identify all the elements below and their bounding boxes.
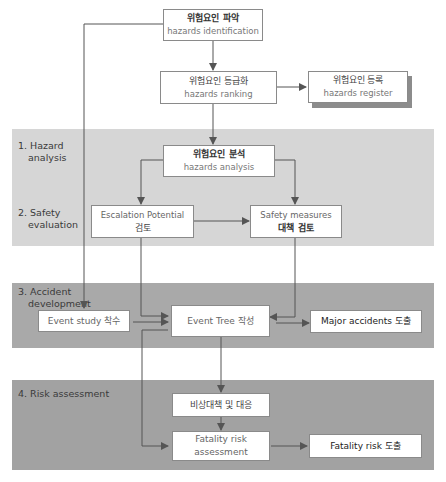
node-title: Major accidents 도출 [321,315,411,328]
node-title: Event study 착수 [48,315,120,328]
node-title-ko: 위험요인 등록 [333,74,384,87]
node-fatality-risk: Fatality risk 도출 [309,434,422,458]
node-event-tree: Event Tree 작성 [171,305,270,337]
node-emergency-response: 비상대책 및 대응 [172,393,270,417]
node-title-ko: 위험요인 등급화 [189,75,248,88]
node-title-en: hazards identification [167,25,259,38]
node-major-accidents: Major accidents 도출 [310,310,422,333]
node-hazards-register: 위험요인 등록 hazards register [308,71,408,103]
node-hazards-identification: 위험요인 파악 hazards identification [163,9,263,41]
node-title-ko: 위험요인 분석 [193,148,244,161]
node-fatality-risk-assessment: Fatality risk assessment [172,431,270,461]
node-title-ko: 위험요인 파악 [187,12,238,25]
node-safety-measures: Safety measures 대책 검토 [250,205,342,238]
node-title-en: hazards ranking [184,88,252,101]
stage-label-hazard-analysis: 1. Hazard analysis [18,140,66,164]
node-title-ko: 대책 검토 [278,222,313,235]
node-title: Fatality risk 도출 [330,440,401,453]
node-title: 비상대책 및 대응 [190,399,252,412]
node-title-en: Escalation Potential [101,209,184,222]
node-title: Fatality risk assessment [173,433,269,459]
stage-label-line: analysis [18,152,66,164]
node-title-en: hazards register [324,87,393,100]
node-title-en: Safety measures [260,209,331,222]
stage-label-line: 1. Hazard [18,140,66,152]
node-hazards-analysis: 위험요인 분석 hazards analysis [163,145,275,177]
stage-label-line: 2. Safety [18,207,78,219]
stage-label-risk-assessment: 4. Risk assessment [18,388,109,400]
node-title-ko: 검토 [135,222,151,235]
node-event-study: Event study 착수 [38,310,130,332]
stage-label-accident-development: 3. Accident development [18,286,91,310]
stage-label-line: evaluation [18,219,78,231]
stage-label-line: development [18,298,91,310]
stage-label-safety-evaluation: 2. Safety evaluation [18,207,78,231]
node-escalation-potential: Escalation Potential 검토 [91,205,194,238]
stage-label-line: 3. Accident [18,286,91,298]
node-title-en: hazards analysis [184,161,255,174]
node-title: Event Tree 작성 [187,315,253,328]
stage-label-line: 4. Risk assessment [18,388,109,400]
node-hazards-ranking: 위험요인 등급화 hazards ranking [160,71,277,104]
